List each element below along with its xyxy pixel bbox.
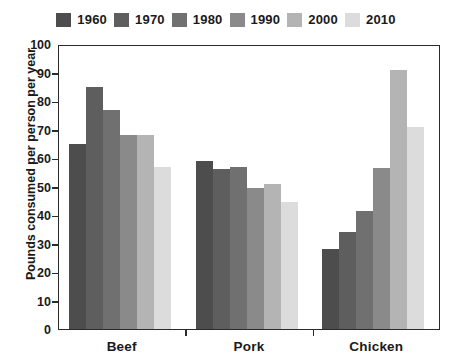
legend-item-2010[interactable]: 2010 bbox=[345, 13, 396, 27]
bar-slot bbox=[120, 46, 137, 329]
legend-swatch-1980 bbox=[172, 13, 187, 27]
bar-chicken-2000[interactable] bbox=[390, 70, 407, 329]
bar-chicken-2010[interactable] bbox=[407, 127, 424, 329]
legend-label-1970: 1970 bbox=[135, 13, 165, 27]
bar-slot bbox=[247, 46, 264, 329]
bar-pork-1980[interactable] bbox=[230, 167, 247, 329]
bar-slot bbox=[103, 46, 120, 329]
bar-slot bbox=[339, 46, 356, 329]
bar-beef-2000[interactable] bbox=[137, 135, 154, 329]
bar-slot bbox=[154, 46, 171, 329]
legend-swatch-2010 bbox=[345, 13, 360, 27]
bar-slot bbox=[196, 46, 213, 329]
legend-item-1980[interactable]: 1980 bbox=[172, 13, 223, 27]
bar-slot bbox=[407, 46, 424, 329]
bar-slot bbox=[69, 46, 86, 329]
bar-beef-1980[interactable] bbox=[103, 110, 120, 329]
y-tick-label: 0 bbox=[44, 323, 58, 337]
bar-beef-1990[interactable] bbox=[120, 135, 137, 329]
bar-slot bbox=[390, 46, 407, 329]
y-tick-label: 100 bbox=[30, 38, 58, 52]
legend-item-1990[interactable]: 1990 bbox=[230, 13, 281, 27]
bar-slot bbox=[86, 46, 103, 329]
plot-area bbox=[59, 46, 439, 329]
bar-slot bbox=[213, 46, 230, 329]
x-axis: BeefPorkChicken bbox=[58, 330, 440, 361]
x-label-pork: Pork bbox=[185, 339, 312, 354]
legend-item-1970[interactable]: 1970 bbox=[114, 13, 165, 27]
bar-chicken-1980[interactable] bbox=[356, 211, 373, 329]
bar-slot bbox=[281, 46, 298, 329]
bar-slot bbox=[264, 46, 281, 329]
legend-item-2000[interactable]: 2000 bbox=[287, 13, 338, 27]
bar-pork-1970[interactable] bbox=[213, 169, 230, 329]
bar-beef-1970[interactable] bbox=[86, 87, 103, 329]
chart-legend: 196019701980199020002010 bbox=[0, 13, 459, 27]
bar-pork-1960[interactable] bbox=[196, 161, 213, 329]
x-label-beef: Beef bbox=[58, 339, 185, 354]
legend-label-1980: 1980 bbox=[193, 13, 223, 27]
bar-slot bbox=[322, 46, 339, 329]
legend-item-1960[interactable]: 1960 bbox=[56, 13, 107, 27]
legend-swatch-1960 bbox=[56, 13, 71, 27]
bar-group-beef bbox=[59, 46, 186, 329]
legend-label-2010: 2010 bbox=[366, 13, 396, 27]
legend-label-2000: 2000 bbox=[308, 13, 338, 27]
y-axis-title: Pounds consumed per person per year bbox=[24, 27, 38, 302]
bar-pork-2010[interactable] bbox=[281, 202, 298, 329]
bar-chicken-1970[interactable] bbox=[339, 232, 356, 329]
x-axis-labels: BeefPorkChicken bbox=[58, 339, 440, 354]
legend-label-1960: 1960 bbox=[77, 13, 107, 27]
plot-frame bbox=[58, 45, 440, 330]
x-axis-separator bbox=[185, 330, 187, 336]
x-axis-separator bbox=[313, 330, 315, 336]
bar-beef-2010[interactable] bbox=[154, 167, 171, 329]
bar-pork-1990[interactable] bbox=[247, 188, 264, 329]
bar-group-pork bbox=[186, 46, 313, 329]
bar-beef-1960[interactable] bbox=[69, 144, 86, 329]
bar-slot bbox=[373, 46, 390, 329]
bar-slot bbox=[137, 46, 154, 329]
bar-chicken-1960[interactable] bbox=[322, 249, 339, 329]
bar-chicken-1990[interactable] bbox=[373, 168, 390, 329]
y-axis: Pounds consumed per person per year 0102… bbox=[0, 45, 58, 330]
bar-chart: 196019701980199020002010 Pounds consumed… bbox=[0, 0, 459, 361]
bar-group-chicken bbox=[312, 46, 439, 329]
legend-swatch-1970 bbox=[114, 13, 129, 27]
x-label-chicken: Chicken bbox=[313, 339, 440, 354]
bar-pork-2000[interactable] bbox=[264, 184, 281, 329]
bar-slot bbox=[230, 46, 247, 329]
bar-slot bbox=[356, 46, 373, 329]
legend-swatch-2000 bbox=[287, 13, 302, 27]
legend-swatch-1990 bbox=[230, 13, 245, 27]
legend-label-1990: 1990 bbox=[251, 13, 281, 27]
